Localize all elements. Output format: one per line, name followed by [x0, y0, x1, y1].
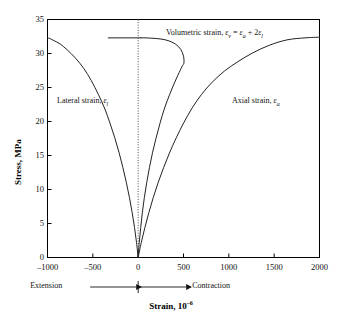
curve-axial-strain [138, 37, 319, 257]
curve-lateral-strain [48, 38, 139, 258]
y-tick-label: 15 [18, 150, 44, 160]
x-tick-label: 2000 [295, 262, 342, 272]
x-tick-label: 0 [113, 262, 163, 272]
x-axis-title-exponent: –6 [187, 299, 193, 306]
y-axis-ticks [48, 20, 52, 258]
x-tick-label: 500 [159, 262, 209, 272]
axial-strain-annotation: Axial strain, εa [232, 96, 280, 107]
axial-subscript: a [277, 101, 280, 107]
x-axis-ticks [48, 254, 320, 258]
x-tick-label: 1000 [204, 262, 254, 272]
x-tick-label: –500 [68, 262, 118, 272]
volumetric-equals: = [231, 28, 240, 37]
y-tick-label: 5 [18, 218, 44, 228]
x-tick-label: 1500 [249, 262, 299, 272]
extension-label: Extension [30, 281, 62, 290]
curve-volumetric-strain [138, 38, 184, 258]
y-tick-label: 10 [18, 184, 44, 194]
data-curves [48, 37, 320, 257]
contraction-label: Contraction [192, 281, 230, 290]
y-tick-label: 30 [18, 48, 44, 58]
chart-figure: Stress, MPa Strain, 10–6 Extension Contr… [0, 0, 342, 320]
lateral-subscript: l [107, 101, 109, 107]
y-tick-label: 35 [18, 14, 44, 24]
y-tick-label: 25 [18, 82, 44, 92]
y-axis-title: Stress, MPa [13, 139, 23, 185]
chart-plot-svg [0, 0, 342, 320]
volumetric-subscript-l: l [261, 33, 263, 39]
x-tick-label: –1000 [23, 262, 73, 272]
y-tick-label: 0 [18, 252, 44, 262]
x-axis-title-text: Strain, 10 [149, 301, 187, 311]
volumetric-annotation-text: Volumetric strain, [166, 28, 225, 37]
lateral-strain-annotation: Lateral strain, εl [57, 96, 108, 107]
lateral-annotation-text: Lateral strain, [57, 96, 103, 105]
volumetric-plus-two: + 2 [246, 28, 259, 37]
direction-arrow-group [90, 281, 186, 293]
y-tick-label: 20 [18, 116, 44, 126]
axial-annotation-text: Axial strain, [232, 96, 274, 105]
volumetric-strain-annotation: Volumetric strain, εv = εa + 2εl [166, 28, 263, 39]
x-axis-title: Strain, 10–6 [0, 299, 342, 311]
